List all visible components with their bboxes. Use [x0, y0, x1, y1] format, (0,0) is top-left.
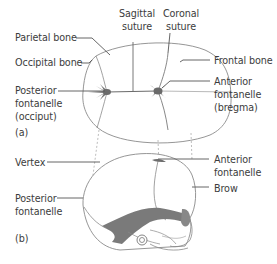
panel-tag-a: (a)	[15, 126, 28, 139]
label-afb-line1: Anterior	[214, 153, 261, 166]
label-pf-line3: (occiput)	[15, 110, 62, 123]
label-af-line3: (bregma)	[214, 101, 261, 114]
label-sagittal-suture: Sagittal suture	[119, 7, 155, 33]
label-occipital-bone: Occipital bone	[15, 56, 82, 69]
skull-top-view	[83, 42, 231, 143]
label-anterior-fontanelle-a: Anterior fontanelle (bregma)	[214, 75, 261, 114]
label-vertex: Vertex	[15, 156, 45, 169]
label-sagittal-line2: suture	[119, 20, 155, 33]
label-posterior-fontanelle-a: Posterior fontanelle (occiput)	[15, 84, 62, 123]
label-brow: Brow	[214, 182, 238, 195]
panel-tag-b: (b)	[15, 232, 28, 245]
label-af-line1: Anterior	[214, 75, 261, 88]
label-anterior-fontanelle-b: Anterior fontanelle	[214, 153, 261, 179]
label-afb-line2: fontanelle	[214, 166, 261, 179]
label-sagittal-line1: Sagittal	[119, 7, 155, 20]
label-parietal-bone: Parietal bone	[15, 31, 77, 44]
label-af-line2: fontanelle	[214, 88, 261, 101]
skull-side-view	[83, 154, 196, 251]
label-pfb-line2: fontanelle	[15, 205, 62, 218]
label-pf-line1: Posterior	[15, 84, 62, 97]
label-coronal-suture: Coronal suture	[163, 7, 199, 33]
label-posterior-fontanelle-b: Posterior fontanelle	[15, 192, 62, 218]
label-coronal-line1: Coronal	[163, 7, 199, 20]
label-pfb-line1: Posterior	[15, 192, 62, 205]
label-frontal-bone: Frontal bone	[214, 54, 273, 67]
label-coronal-line2: suture	[163, 20, 199, 33]
label-pf-line2: fontanelle	[15, 97, 62, 110]
